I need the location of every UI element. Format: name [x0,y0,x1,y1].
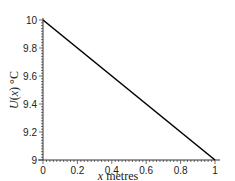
axis-ticks [39,20,215,164]
y-axis-label: U(x) °C [7,71,21,109]
x-tick-label: 1 [212,165,218,176]
x-tick-label: 0.2 [70,165,84,176]
data-line [43,20,215,160]
tick-labels: 00.20.40.60.8199.29.49.69.810 [23,15,218,176]
y-tick-label: 9 [31,155,37,166]
x-axis-label: x metres [97,169,139,181]
y-tick-label: 9.8 [23,43,37,54]
y-tick-label: 9.2 [23,127,37,138]
y-tick-label: 9.6 [23,71,37,82]
x-tick-label: 0.8 [174,165,188,176]
x-tick-label: 0 [40,165,46,176]
y-tick-label: 9.4 [23,99,37,110]
x-tick-label: 0.6 [139,165,153,176]
y-tick-label: 10 [26,15,38,26]
line-chart: 00.20.40.60.8199.29.49.69.810 x metres U… [0,0,235,181]
